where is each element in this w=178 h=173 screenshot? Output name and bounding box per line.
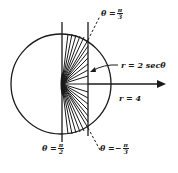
label-r4: r = 4 <box>119 94 141 102</box>
label-theta-pi2: θ =π2 <box>42 142 64 155</box>
label-prefix: θ = <box>101 8 116 18</box>
label-r-2sec: r = 2 secθ <box>121 61 166 69</box>
origin-dense-region <box>61 72 66 96</box>
fraction: π2 <box>58 142 64 155</box>
arrowhead-icon <box>157 80 166 88</box>
fraction-denominator: 3 <box>124 149 128 155</box>
polar-diagram <box>0 0 178 173</box>
dashed-ray-neg-pi3 <box>88 128 100 150</box>
label-theta-pi3: θ =π3 <box>101 7 123 20</box>
label-theta-neg-pi3: θ =−π3 <box>100 142 129 155</box>
pointer-arrowhead-icon <box>90 67 96 72</box>
pointer-curve <box>92 65 118 71</box>
fraction-denominator: 2 <box>59 149 63 155</box>
label-prefix: θ = <box>100 143 115 153</box>
fraction-denominator: 3 <box>118 14 122 20</box>
label-sign: − <box>115 143 122 153</box>
shading-rays <box>62 34 88 134</box>
dashed-ray-pi3 <box>88 16 100 40</box>
label-prefix: θ = <box>42 143 57 153</box>
fraction: π3 <box>123 142 129 155</box>
fraction: π3 <box>117 7 123 20</box>
